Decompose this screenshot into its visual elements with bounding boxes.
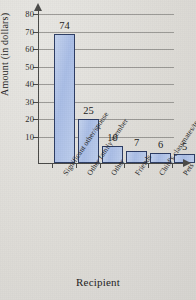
gridline-80 xyxy=(38,14,174,15)
plot-area: 74 25 10 7 6 5 80 70 60 50 40 30 20 10 xyxy=(38,14,174,163)
y-tick-label-10: 10 xyxy=(25,133,34,142)
y-tick-label-50: 50 xyxy=(25,63,34,72)
bar-significant-other-spouse xyxy=(54,34,75,164)
y-axis-line xyxy=(38,8,39,163)
bar-value-childs-classmates-teachers: 6 xyxy=(150,140,171,151)
bar-value-friends: 7 xyxy=(126,138,147,149)
y-tick-label-70: 70 xyxy=(25,28,34,37)
bar-value-significant-other-spouse: 74 xyxy=(54,21,75,32)
y-tick-label-80: 80 xyxy=(25,10,34,19)
y-axis-arrow-icon xyxy=(34,3,42,11)
x-tick-0 xyxy=(52,163,53,168)
x-axis-title: Recipient xyxy=(0,276,196,288)
y-axis-title: Amount (in dollars) xyxy=(0,13,10,96)
gridline-70 xyxy=(38,32,174,33)
y-tick-label-60: 60 xyxy=(25,45,34,54)
y-tick-label-40: 40 xyxy=(25,80,34,89)
y-tick-label-20: 20 xyxy=(25,115,34,124)
bar-value-other-family-member: 25 xyxy=(78,106,99,117)
y-tick-label-30: 30 xyxy=(25,98,34,107)
chart-figure: 74 25 10 7 6 5 80 70 60 50 40 30 20 10 xyxy=(0,0,196,300)
